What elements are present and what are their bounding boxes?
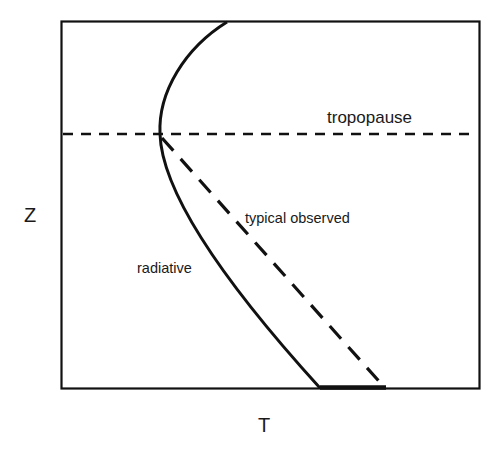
typical-observed-label: typical observed [245,210,350,226]
radiative-label: radiative [137,260,192,276]
typical-observed-line [162,138,385,388]
tropopause-label: tropopause [327,108,412,127]
temperature-profile-diagram: tropopause typical observed radiative Z … [0,0,502,451]
x-axis-label: T [258,414,270,436]
radiative-curve [160,22,320,388]
y-axis-label: Z [24,204,36,226]
